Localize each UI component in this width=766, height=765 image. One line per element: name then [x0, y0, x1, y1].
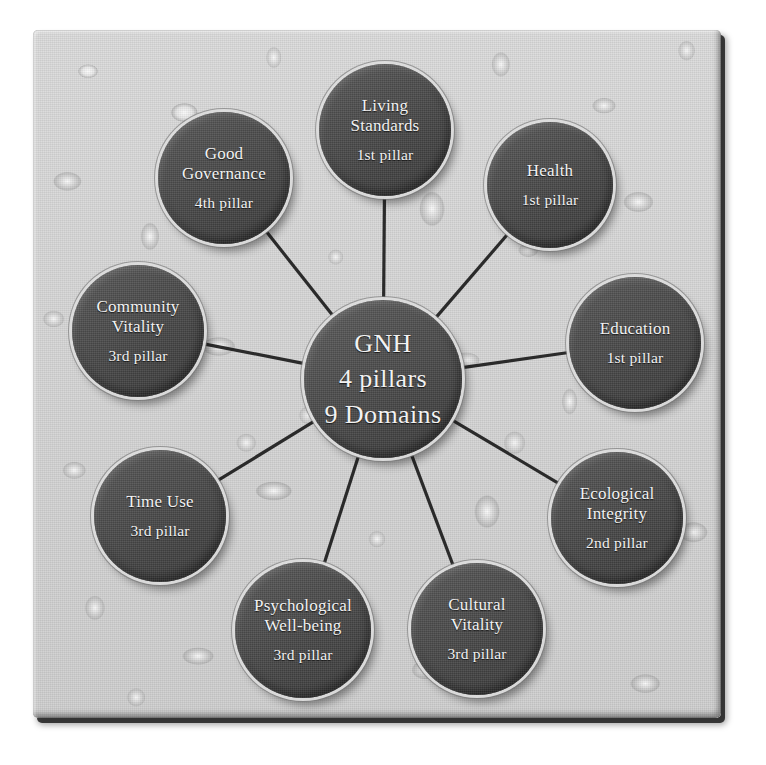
domain-node-pillar: 2nd pillar: [586, 534, 648, 552]
domain-node-health[interactable]: Health1st pillar: [487, 122, 613, 248]
domain-node-title: Health: [527, 161, 574, 180]
domain-node-ecological-integrity[interactable]: Ecological Integrity2nd pillar: [551, 452, 683, 584]
gnh-center-line3: 9 Domains: [325, 397, 442, 432]
gnh-center-node[interactable]: GNH4 pillars9 Domains: [304, 300, 462, 458]
domain-node-living-standards[interactable]: Living Standards1st pillar: [319, 64, 451, 196]
domain-node-pillar: 1st pillar: [607, 349, 664, 367]
domain-node-pillar: 1st pillar: [522, 191, 579, 209]
domain-node-title: Time Use: [126, 492, 194, 511]
gnh-center-line2: 4 pillars: [339, 361, 427, 396]
domain-node-title: Ecological Integrity: [580, 484, 655, 523]
domain-node-title: Living Standards: [351, 96, 420, 135]
domain-node-pillar: 3rd pillar: [108, 347, 167, 365]
diagram-canvas: Living Standards1st pillarHealth1st pill…: [0, 0, 766, 765]
domain-node-title: Psychological Well-being: [254, 596, 352, 635]
domain-node-pillar: 3rd pillar: [273, 646, 332, 664]
domain-node-time-use[interactable]: Time Use3rd pillar: [94, 450, 226, 582]
domain-node-community-vitality[interactable]: Community Vitality3rd pillar: [72, 265, 204, 397]
domain-node-pillar: 4th pillar: [195, 194, 253, 212]
gnh-center-line1: GNH: [354, 326, 412, 361]
domain-node-pillar: 1st pillar: [357, 146, 414, 164]
domain-node-title: Cultural Vitality: [448, 595, 505, 634]
domain-node-pillar: 3rd pillar: [447, 645, 506, 663]
domain-node-pillar: 3rd pillar: [130, 522, 189, 540]
domain-node-good-governance[interactable]: Good Governance4th pillar: [158, 112, 290, 244]
domain-node-cultural-vitality[interactable]: Cultural Vitality3rd pillar: [411, 563, 543, 695]
domain-node-psychological-well-being[interactable]: Psychological Well-being3rd pillar: [235, 562, 371, 698]
domain-node-title: Education: [600, 319, 671, 338]
domain-node-title: Good Governance: [182, 144, 266, 183]
domain-node-education[interactable]: Education1st pillar: [569, 277, 701, 409]
domain-node-title: Community Vitality: [96, 297, 179, 336]
